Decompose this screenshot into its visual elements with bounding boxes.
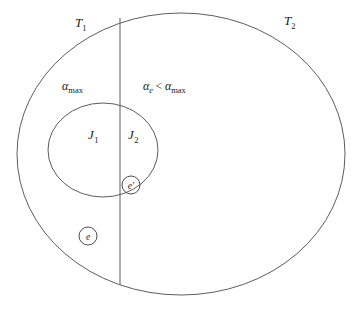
label-T1: T1	[75, 15, 86, 33]
label-J2: J2	[128, 127, 139, 145]
alpha-subscript-left: max	[68, 85, 83, 95]
alpha-subscript-e: e	[149, 85, 153, 95]
element-e-label: e	[86, 232, 90, 242]
label-J1: J1	[88, 127, 99, 145]
label-J2-subscript: 2	[134, 135, 138, 145]
outer-ellipse-T	[17, 13, 345, 295]
inequality-operator: <	[156, 79, 163, 93]
label-J1-subscript: 1	[94, 135, 98, 145]
label-T2-subscript: 2	[291, 21, 295, 31]
alpha-subscript-max: max	[171, 85, 186, 95]
inner-ellipse-J	[48, 103, 158, 197]
element-e-prime-label: e′	[128, 181, 135, 191]
label-T2: T2	[284, 13, 295, 31]
label-T1-subscript: 1	[82, 23, 86, 33]
set-diagram: T1 T2 αmax αe<αmax J1 J2 e′ e	[0, 0, 361, 310]
diagram-canvas: T1 T2 αmax αe<αmax J1 J2 e′ e	[0, 0, 361, 310]
label-alpha-inequality-right: αe<αmax	[143, 79, 187, 95]
label-alpha-max-left: αmax	[62, 79, 84, 95]
